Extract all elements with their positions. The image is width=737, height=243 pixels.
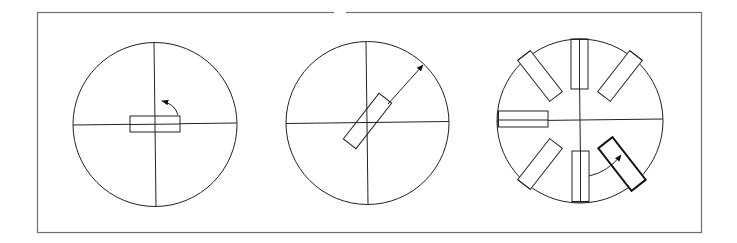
block-bottom-right-highlighted: [598, 137, 645, 191]
block-top-left: [518, 51, 563, 102]
block-top-right: [598, 51, 643, 102]
diagram-figure: [0, 0, 737, 243]
block-left: [498, 111, 548, 127]
panel-2: [286, 42, 449, 205]
rotation-arrow-icon: [162, 101, 178, 115]
block-bottom-left: [518, 139, 563, 190]
panel-1: [73, 43, 237, 207]
radial-arrow-icon: [388, 65, 423, 104]
panel-3: [497, 39, 663, 203]
